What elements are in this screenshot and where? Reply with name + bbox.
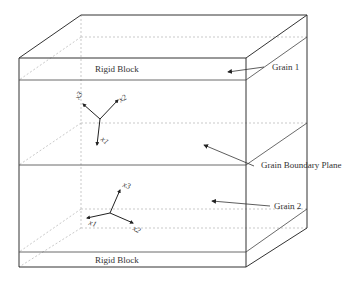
- hidden-edges: [19, 15, 307, 267]
- grain2-label: Grain 2: [274, 201, 301, 211]
- grain2-axes: [87, 190, 133, 223]
- bottom-rigid-block-label: Rigid Block: [95, 255, 139, 265]
- bicrystal-diagram: [0, 0, 357, 287]
- grain-boundary-line: [19, 123, 307, 165]
- bottom-block-line: [19, 209, 307, 252]
- top-rigid-block-label: Rigid Block: [95, 64, 139, 74]
- grain1-label: Grain 1: [272, 62, 299, 72]
- grain-boundary-label: Grain Boundary Plane: [261, 160, 341, 170]
- box-outline: [19, 15, 307, 267]
- grain2-arrow: [212, 201, 270, 206]
